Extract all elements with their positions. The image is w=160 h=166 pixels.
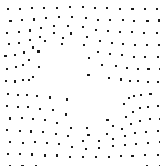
dot-marker [129, 80, 131, 82]
dot-marker [124, 144, 126, 146]
dot-marker [69, 6, 71, 8]
dot-marker [35, 165, 37, 166]
dot-marker [119, 31, 121, 33]
dot-marker [83, 44, 85, 46]
dot-marker [52, 109, 54, 111]
dot-marker [23, 51, 25, 53]
dot-marker [149, 93, 151, 95]
dot-marker [82, 6, 84, 8]
dot-marker [88, 57, 90, 59]
dot-marker [62, 37, 64, 39]
dot-marker [137, 68, 139, 70]
dot-marker [99, 40, 101, 42]
dot-marker [44, 154, 46, 156]
dot-marker [109, 53, 111, 55]
dot-marker [31, 7, 33, 9]
dot-marker [33, 18, 35, 20]
dot-marker [26, 94, 28, 96]
dot-marker [157, 105, 159, 107]
dot-marker [44, 119, 46, 121]
dot-marker [144, 154, 146, 156]
dot-marker [112, 138, 114, 140]
dot-marker [106, 119, 108, 121]
dot-marker [112, 145, 114, 147]
dot-marker [144, 56, 146, 58]
dot-marker [121, 128, 123, 130]
dot-marker [65, 113, 67, 115]
dot-marker [9, 165, 11, 166]
dot-marker [159, 68, 160, 70]
dot-marker [21, 117, 23, 119]
dot-marker [9, 117, 11, 119]
dot-marker [157, 154, 159, 156]
dot-marker [7, 8, 9, 10]
dot-marker [106, 133, 108, 135]
dot-marker [132, 111, 134, 113]
dot-marker [158, 44, 160, 46]
dot-marker [131, 155, 133, 157]
dot-marker [98, 140, 100, 142]
dot-marker [6, 105, 8, 107]
dot-marker [130, 123, 132, 125]
dot-marker [146, 44, 148, 46]
dot-marker [157, 130, 159, 132]
dot-marker [137, 80, 139, 82]
dot-marker [126, 67, 128, 69]
dot-marker [124, 135, 126, 137]
dot-marker [109, 19, 111, 21]
dot-marker [71, 16, 73, 18]
dot-marker [29, 29, 31, 31]
dot-marker [5, 80, 7, 82]
dot-marker [28, 59, 30, 61]
dot-marker [9, 20, 11, 22]
dot-marker [70, 32, 72, 34]
dot-marker [19, 130, 21, 132]
dot-marker [139, 107, 141, 109]
dot-marker [131, 31, 133, 33]
dot-marker [95, 156, 97, 158]
dot-marker [95, 29, 97, 31]
dot-marker [55, 133, 57, 135]
dot-marker [143, 32, 145, 34]
dot-marker [58, 143, 60, 145]
dot-marker [122, 19, 124, 21]
dot-pattern-figure: Dot lattice with radial distortion [0, 0, 160, 166]
dot-marker [139, 120, 141, 122]
dot-marker [82, 140, 84, 142]
dot-marker [97, 19, 99, 21]
dot-marker [53, 25, 55, 27]
dot-marker [19, 153, 21, 155]
dot-marker [97, 51, 99, 53]
dot-marker [32, 46, 34, 48]
dot-marker [121, 54, 123, 56]
dot-marker [157, 56, 159, 58]
dot-marker [39, 108, 41, 110]
dot-marker [19, 8, 21, 10]
dot-marker [42, 131, 44, 133]
dot-marker [86, 127, 88, 129]
dot-marker [147, 81, 149, 83]
dot-marker [82, 26, 84, 28]
dot-marker [67, 135, 69, 137]
dot-marker [56, 154, 58, 156]
dot-marker [71, 146, 73, 148]
dot-marker [101, 64, 103, 66]
dot-marker [53, 32, 55, 34]
dot-marker [56, 7, 58, 9]
dot-marker [87, 134, 89, 136]
dot-marker [8, 43, 10, 45]
dot-marker [17, 106, 19, 108]
dot-marker [133, 56, 135, 58]
dot-marker [21, 19, 23, 21]
dot-marker [6, 129, 8, 131]
dot-marker [158, 19, 160, 21]
dot-marker [22, 64, 24, 66]
dot-marker [133, 95, 135, 97]
dot-marker [144, 8, 146, 10]
dot-marker [28, 79, 30, 81]
dot-marker [85, 148, 87, 150]
dot-marker [31, 153, 33, 155]
dot-marker [30, 130, 32, 132]
dot-marker [159, 118, 160, 120]
dot-marker [22, 79, 24, 81]
